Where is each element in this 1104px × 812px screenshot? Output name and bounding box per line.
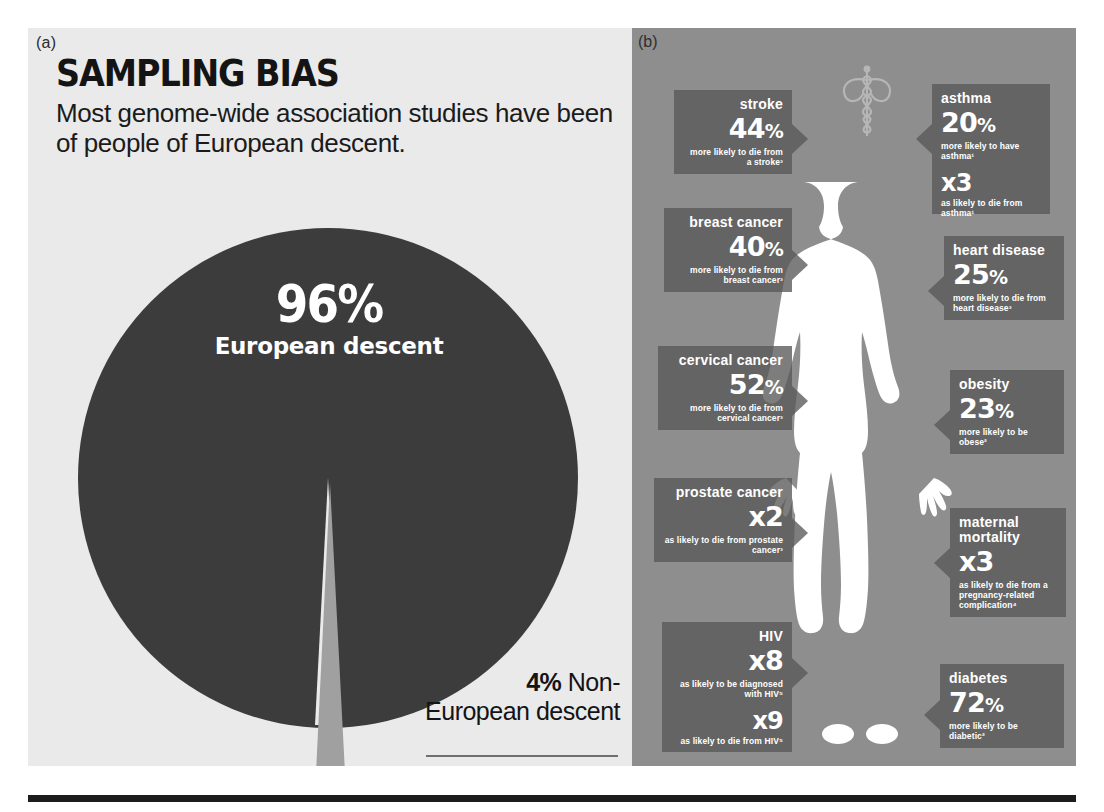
pie-minor-label: 4% Non-European descent — [424, 668, 620, 726]
callout-name: diabetes — [949, 671, 1055, 686]
callout-stat: 44% — [683, 115, 783, 145]
callout-stat: 52% — [667, 371, 783, 401]
callout-cervical-cancer[interactable]: cervical cancer 52% more likely to die f… — [658, 346, 792, 430]
callout-desc: as likely to be diagnosed with HIV⁵ — [671, 679, 783, 699]
caduceus-icon — [835, 62, 899, 140]
callout-name: stroke — [683, 97, 783, 112]
callout-breast-cancer[interactable]: breast cancer 40% more likely to die fro… — [664, 208, 792, 292]
callout-stat-secondary: x9 — [671, 708, 783, 734]
callout-name: prostate cancer — [663, 485, 783, 500]
callout-name: asthma — [941, 91, 1041, 106]
callout-pointer-prostate-cancer — [792, 518, 808, 548]
callout-name: breast cancer — [673, 215, 783, 230]
callout-stat: x8 — [671, 647, 783, 677]
pie-minor-value: 4% — [526, 668, 561, 696]
callout-desc: more likely to die from breast cancer³ — [673, 265, 783, 285]
callout-name: cervical cancer — [667, 353, 783, 368]
callout-desc: more likely to die from a stroke³ — [683, 147, 783, 167]
callout-desc: more likely to be obese² — [959, 427, 1055, 447]
figure-bottom-rule — [28, 795, 1076, 802]
callout-pointer-maternal-mortality — [934, 548, 950, 578]
pie-value-label: 96% — [226, 278, 433, 330]
callout-stat: 40% — [673, 233, 783, 263]
pie-chart-svg — [28, 28, 632, 766]
callout-stat: x3 — [959, 548, 1057, 578]
callout-stat: 25% — [953, 261, 1055, 291]
callout-hiv[interactable]: HIV x8 as likely to be diagnosed with HI… — [662, 622, 792, 752]
panel-b-health-disparities: (b) — [632, 28, 1076, 766]
pie-chart: 96% European descent 4% Non-European des… — [28, 28, 632, 766]
callout-stat: 20% — [941, 109, 1041, 139]
callout-stroke[interactable]: stroke 44% more likely to die from a str… — [674, 90, 792, 174]
callout-desc-secondary: as likely to die from HIV⁵ — [671, 736, 783, 746]
figure-container: (a) SAMPLING BIAS Most genome-wide assoc… — [0, 0, 1104, 812]
callout-stat: x2 — [663, 503, 783, 533]
callout-desc: more likely to be diabetic² — [949, 721, 1055, 741]
callout-desc: as likely to die from a pregnancy-relate… — [959, 580, 1057, 610]
callout-diabetes[interactable]: diabetes 72% more likely to be diabetic² — [940, 664, 1064, 748]
callout-pointer-asthma — [916, 124, 932, 154]
callout-stat: 72% — [949, 689, 1055, 719]
callout-pointer-hiv — [792, 658, 808, 688]
callout-name: obesity — [959, 377, 1055, 392]
callout-desc-secondary: as likely to die from asthma¹ — [941, 198, 1041, 218]
callout-pointer-breast-cancer — [792, 250, 808, 280]
pie-category-label: European descent — [214, 333, 444, 359]
callout-prostate-cancer[interactable]: prostate cancer x2 as likely to die from… — [654, 478, 792, 562]
panel-a-sampling-bias: (a) SAMPLING BIAS Most genome-wide assoc… — [28, 28, 632, 766]
callout-pointer-obesity — [934, 410, 950, 440]
callout-obesity[interactable]: obesity 23% more likely to be obese² — [950, 370, 1064, 454]
pie-minor-category: Non-European descent — [425, 668, 620, 725]
leader-line — [426, 755, 618, 757]
callout-desc: more likely to die from heart disease³ — [953, 293, 1055, 313]
callout-pointer-cervical-cancer — [792, 386, 808, 416]
callout-asthma[interactable]: asthma 20% more likely to have asthma¹ x… — [932, 84, 1050, 214]
callout-name: maternal mortality — [959, 515, 1057, 545]
callout-pointer-diabetes — [924, 700, 940, 730]
callout-desc: more likely to have asthma¹ — [941, 141, 1041, 161]
callout-stat-secondary: x3 — [941, 170, 1041, 196]
callout-pointer-stroke — [792, 124, 808, 154]
callout-desc: more likely to die from cervical cancer³ — [667, 403, 783, 423]
callout-stat: 23% — [959, 395, 1055, 425]
callout-name: HIV — [671, 629, 783, 644]
callout-desc: as likely to die from prostate cancer³ — [663, 535, 783, 555]
callout-maternal-mortality[interactable]: maternal mortality x3 as likely to die f… — [950, 508, 1066, 617]
callout-pointer-heart-disease — [928, 276, 944, 306]
callout-heart-disease[interactable]: heart disease 25% more likely to die fro… — [944, 236, 1064, 320]
panel-b-label: (b) — [638, 33, 658, 51]
callout-name: heart disease — [953, 243, 1055, 258]
